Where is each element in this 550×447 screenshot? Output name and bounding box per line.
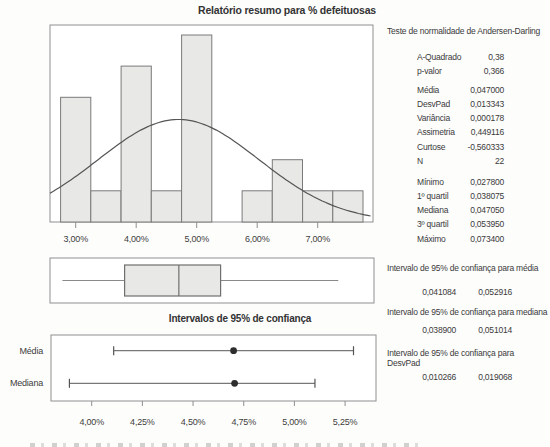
stat-value: 0,38 <box>488 50 504 64</box>
stat-row: 3º quartil0,053950 <box>385 217 548 231</box>
stats-panel: Teste de normalidade de Andersen-Darling… <box>385 0 548 447</box>
stat-label: N <box>417 156 423 166</box>
histogram-chart: 3,00%4,00%5,00%6,00%7,00% <box>40 18 385 250</box>
ci-mean-values: 0,041084 0,052916 <box>385 287 548 297</box>
histogram-bar <box>91 191 121 222</box>
boxplot-chart <box>40 252 385 308</box>
x-tick-label: 5,00% <box>184 234 209 244</box>
stat-label: Mínimo <box>417 177 444 187</box>
stat-row: Curtose-0,560333 <box>385 140 548 154</box>
histogram-bar <box>182 35 212 222</box>
ci-stdev-values: 0,010266 0,019068 <box>385 372 548 382</box>
x-tick-label: 4,25% <box>130 417 155 427</box>
histogram-bar <box>61 97 91 222</box>
ci-median-high: 0,051014 <box>478 325 512 335</box>
stat-row: Variância0,000178 <box>385 111 548 125</box>
stat-label: 3º quartil <box>417 219 448 229</box>
stat-value: 22 <box>495 154 504 168</box>
stat-label: Assimetria <box>417 127 455 137</box>
x-tick-label: 4,75% <box>231 417 256 427</box>
stat-label: 1º quartil <box>417 191 448 201</box>
quantile-stats-group: Mínimo0,0278001º quartil0,038075Mediana0… <box>385 175 548 246</box>
ci-stdev-low: 0,010266 <box>422 372 456 382</box>
ci-stdev-high: 0,019068 <box>478 372 512 382</box>
stat-value: 0,053950 <box>470 217 504 231</box>
cropped-caption-strip <box>30 443 420 447</box>
x-tick-label: 4,00% <box>79 417 104 427</box>
stat-label: Curtose <box>417 142 445 152</box>
stat-label: DesvPad <box>417 99 450 109</box>
stat-row: Máximo0,073400 <box>385 232 548 246</box>
stat-label: Variância <box>417 113 450 123</box>
stat-value: 0,047000 <box>470 83 504 97</box>
stat-value: 0,027800 <box>470 175 504 189</box>
histogram-bar <box>151 191 181 222</box>
x-tick-label: 5,00% <box>282 417 307 427</box>
ci-median-header: Intervalo de 95% de confiança para media… <box>387 307 548 317</box>
intervals-chart: MédiaMediana4,00%4,25%4,50%4,75%5,00%5,2… <box>0 310 390 435</box>
stat-value: 0,047050 <box>470 203 504 217</box>
stat-row: N22 <box>385 154 548 168</box>
stat-value: 0,073400 <box>470 232 504 246</box>
ci-point <box>230 347 237 354</box>
ci-stdev-header: Intervalo de 95% de confiança para DesvP… <box>387 348 548 358</box>
ci-median-low: 0,038900 <box>422 325 456 335</box>
histogram-bar <box>121 66 151 222</box>
stat-row: Mediana0,047050 <box>385 203 548 217</box>
ci-mean-header: Intervalo de 95% de confiança para média <box>387 263 548 273</box>
stat-row: p-valor0,366 <box>385 64 548 78</box>
stat-row: Mínimo0,027800 <box>385 175 548 189</box>
ci-mean-low: 0,041084 <box>422 287 456 297</box>
histogram-bar <box>333 191 363 222</box>
histogram-bar <box>242 191 272 222</box>
stat-row: 1º quartil0,038075 <box>385 189 548 203</box>
stat-label: A-Quadrado <box>417 52 461 62</box>
stat-row: DesvPad0,013343 <box>385 97 548 111</box>
ci-mean-high: 0,052916 <box>478 287 512 297</box>
histogram-bar <box>303 191 333 222</box>
stat-row: Média0,047000 <box>385 83 548 97</box>
intervals-frame <box>51 335 376 401</box>
ci-row-label: Média <box>19 346 43 356</box>
stat-label: Máximo <box>417 234 446 244</box>
ci-median-values: 0,038900 0,051014 <box>385 325 548 335</box>
x-tick-label: 5,25% <box>333 417 358 427</box>
ci-point <box>231 380 238 387</box>
stat-value: 0,000178 <box>470 111 504 125</box>
normality-stats-group: A-Quadrado0,38p-valor0,366 <box>385 50 548 79</box>
normality-test-header: Teste de normalidade de Andersen-Darling <box>387 26 548 36</box>
stat-value: 0,449116 <box>471 125 504 139</box>
summary-report: Relatório resumo para % defeituosas 3,00… <box>0 0 550 447</box>
stat-value: -0,560333 <box>468 140 504 154</box>
stat-value: 0,038075 <box>470 189 504 203</box>
x-tick-label: 7,00% <box>305 234 330 244</box>
histogram-bar <box>272 160 302 222</box>
stat-label: p-valor <box>417 66 442 76</box>
x-tick-label: 4,00% <box>124 234 149 244</box>
ci-row-label: Mediana <box>10 378 43 388</box>
stat-row: Assimetria0,449116 <box>385 125 548 139</box>
iqr-box <box>125 265 221 296</box>
stat-row: A-Quadrado0,38 <box>385 50 548 64</box>
x-tick-label: 3,00% <box>63 234 88 244</box>
x-tick-label: 6,00% <box>245 234 270 244</box>
descriptive-stats-group: Média0,047000DesvPad0,013343Variância0,0… <box>385 83 548 169</box>
stat-label: Média <box>417 85 439 95</box>
stat-label: Mediana <box>417 205 448 215</box>
stat-value: 0,013343 <box>470 97 504 111</box>
stat-value: 0,366 <box>484 64 504 78</box>
x-tick-label: 4,50% <box>181 417 206 427</box>
